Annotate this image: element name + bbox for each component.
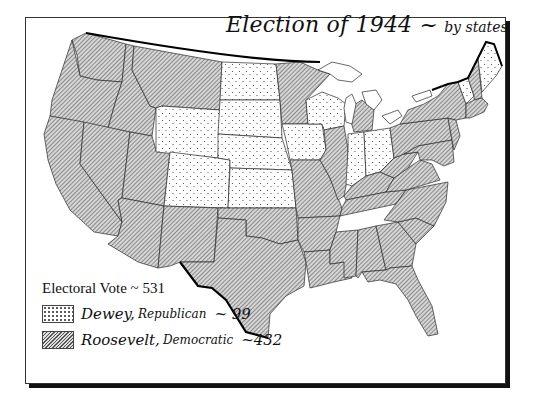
legend-candidate: Roosevelt, — [81, 331, 160, 349]
legend-votes: ~432 — [241, 331, 282, 349]
legend: Electoral Vote ~ 531 Dewey, Republican ~… — [42, 280, 282, 355]
state-florida — [362, 266, 438, 336]
state-north-dakota — [220, 62, 280, 100]
legend-item-roosevelt: Roosevelt, Democratic ~432 — [42, 329, 282, 351]
legend-party: Republican — [138, 307, 207, 321]
map-title: Election of 1944 ~by states — [226, 12, 508, 37]
lake-erie — [382, 110, 402, 124]
title-main: Election of 1944 ~ — [226, 12, 438, 37]
legend-header: Electoral Vote ~ 531 — [42, 280, 282, 297]
lake-ontario — [412, 90, 432, 102]
state-wyoming — [156, 106, 220, 158]
stipple-swatch-icon — [42, 305, 74, 323]
state-kansas — [228, 168, 296, 208]
legend-votes: ~ 99 — [214, 305, 250, 323]
legend-party: Democratic — [163, 333, 233, 347]
state-washington — [72, 33, 126, 82]
legend-item-dewey: Dewey, Republican ~ 99 — [42, 303, 282, 325]
legend-candidate: Dewey, — [81, 305, 135, 323]
hatch-swatch-icon — [42, 331, 74, 349]
state-new-york — [400, 82, 466, 124]
state-iowa — [282, 124, 326, 160]
state-wisconsin — [306, 92, 346, 130]
title-sub: by states — [444, 19, 508, 35]
state-colorado — [164, 152, 230, 208]
state-south-dakota — [218, 100, 282, 138]
state-new-mexico — [158, 206, 218, 268]
